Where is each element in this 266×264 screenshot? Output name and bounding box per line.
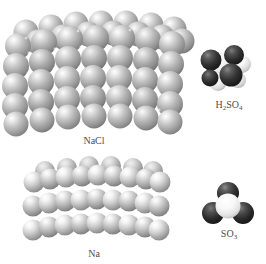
h2so4-atom-oxygen-4 [202, 70, 219, 87]
so3-molecule-figure [198, 182, 258, 226]
so3-molecule-svg [198, 182, 258, 226]
na-lattice-svg [20, 160, 170, 250]
chemistry-figure-canvas: which has the fewest [0, 0, 266, 264]
na-lattice-layer-3 [23, 213, 170, 241]
h2so4-atom-oxygen-2 [224, 45, 244, 65]
so3-atom-sulfur [216, 194, 241, 219]
h2so4-molecule-figure [198, 44, 258, 98]
nacl-lattice-svg [4, 16, 186, 134]
na-lattice-layer-2 [23, 189, 170, 217]
h2so4-atom-oxygen-1 [201, 50, 222, 71]
na-label: Na [58, 248, 130, 260]
h2so4-atom-oxygen-3 [220, 64, 243, 87]
h2so4-molecule-svg [198, 44, 258, 98]
nacl-crystal-figure [4, 16, 186, 134]
na-crystal-figure [20, 160, 170, 250]
top-caption-fragment: which has the fewest [11, 0, 137, 3]
nacl-label: NaCl [58, 135, 130, 147]
h2so4-label: H2SO4 [198, 99, 260, 111]
so3-label: SO3 [198, 228, 260, 240]
